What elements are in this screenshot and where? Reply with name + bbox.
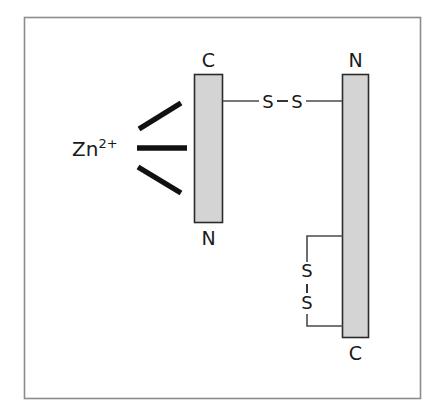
helix-left-top-terminus-label: C <box>202 49 215 71</box>
helix-left-bottom-terminus-label: N <box>201 227 215 249</box>
helix-right-bar <box>343 75 369 338</box>
disulfide-vertical-sulfur-top-label: S <box>301 260 312 281</box>
disulfide-vertical-sulfur-bottom-label: S <box>301 292 312 313</box>
figure-root: C N N C Zn2+ S S S <box>0 0 438 417</box>
helix-right-group: N C <box>343 49 369 364</box>
helix-left-bar <box>195 75 223 223</box>
helix-right-top-terminus-label: N <box>348 49 362 71</box>
disulfide-horizontal-sulfur-right-label: S <box>291 91 302 112</box>
zinc-ion-label-superscript: 2+ <box>98 136 117 151</box>
helix-right-bottom-terminus-label: C <box>349 342 362 364</box>
zinc-ion-label-main: Zn <box>72 137 98 161</box>
disulfide-horizontal-sulfur-left-label: S <box>262 91 273 112</box>
schematic-diagram: C N N C Zn2+ S S S <box>0 0 438 417</box>
helix-left-group: C N <box>195 49 223 249</box>
